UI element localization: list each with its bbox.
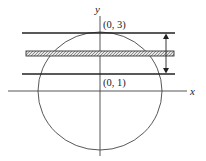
hatched-strip [26,51,174,56]
point-label-0-3: (0, 3) [103,19,126,31]
y-axis-label: y [94,3,100,15]
point-label-0-1: (0, 1) [103,77,126,89]
diagram: y x (0, 3) (0, 1) [0,0,206,161]
x-axis-label: x [189,85,195,97]
diagram-canvas: y x (0, 3) (0, 1) [0,0,206,161]
